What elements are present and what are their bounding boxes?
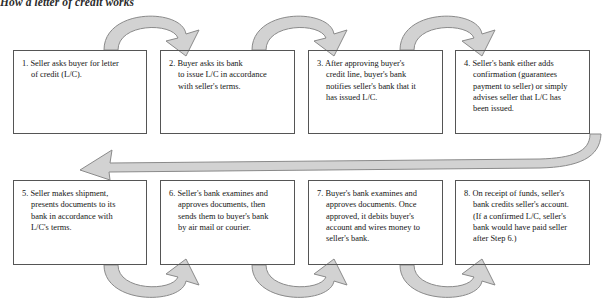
step-box-3[interactable]: 3. After approving buyer's credit line, … [308,50,443,134]
step-box-7[interactable]: 7. Buyer's bank examines and approves do… [308,180,443,265]
arrow-4-to-5 [80,134,601,180]
step-text-8: 8. On receipt of funds, seller's bank cr… [464,188,582,244]
step-box-6[interactable]: 6. Seller's bank examines and approves d… [160,180,295,265]
step-text-4: 4. Seller's bank either adds confirmatio… [464,58,582,114]
step-box-1[interactable]: 1. Seller asks buyer for letter of credi… [13,50,147,134]
step-box-4[interactable]: 4. Seller's bank either adds confirmatio… [455,50,590,134]
step-text-7: 7. Buyer's bank examines and approves do… [317,188,435,244]
step-box-5[interactable]: 5. Seller makes shipment, presents docum… [13,180,147,265]
step-box-2[interactable]: 2. Buyer asks its bank to issue L/C in a… [160,50,295,134]
step-text-2: 2. Buyer asks its bank to issue L/C in a… [169,58,287,92]
step-text-6: 6. Seller's bank examines and approves d… [169,188,287,233]
step-text-3: 3. After approving buyer's credit line, … [317,58,435,103]
step-box-8[interactable]: 8. On receipt of funds, seller's bank cr… [455,180,590,265]
step-text-1: 1. Seller asks buyer for letter of credi… [22,58,139,81]
step-text-5: 5. Seller makes shipment, presents docum… [22,188,139,233]
